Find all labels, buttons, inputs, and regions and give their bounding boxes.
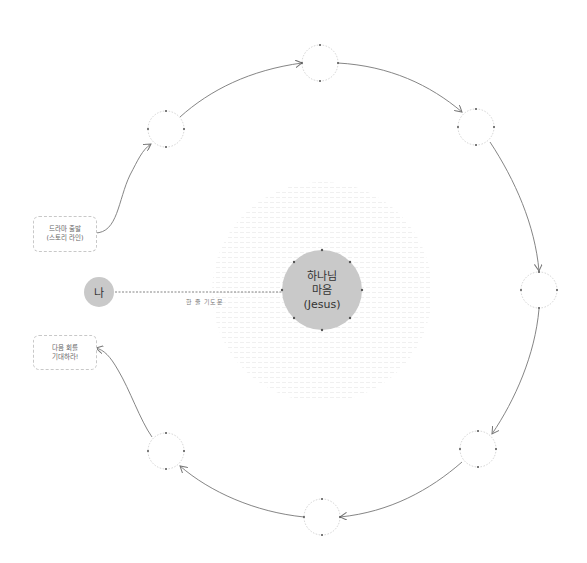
cycle-node-upper-left[interactable] [147,110,185,148]
center-label-line-1: 하나님 [307,270,337,284]
start-box-line-1: 드라마 출발 [49,225,81,234]
cycle-node-lower-left[interactable] [147,432,185,470]
arrow-lower-left-to-end [96,348,152,437]
end-box-line-2: 기대하라! [52,353,79,362]
end-box[interactable]: 다음 회를 기대하라! [33,335,97,370]
cycle-node-top[interactable] [301,44,339,82]
arrow-lower-right-to-bottom [340,462,462,517]
arrow-upper-right-to-right [490,142,539,271]
arrow-start-to-upper-left [95,144,151,233]
cycle-node-right[interactable] [520,271,558,309]
arrow-bottom-to-lower-left [180,466,304,517]
center-label-line-3: (Jesus) [303,298,340,312]
start-box-line-2: (스토리 라인) [46,234,83,243]
connector-label: 한 줄 기도문 [186,297,223,306]
cycle-node-bottom[interactable] [303,498,341,536]
cycle-node-lower-right[interactable] [459,430,497,468]
cycle-node-upper-right[interactable] [457,108,495,146]
end-box-line-1: 다음 회를 [52,344,78,353]
self-node-label: 나 [84,284,114,300]
arrow-upper-left-to-top [180,63,302,117]
center-node-label: 하나님 마음 (Jesus) [282,266,362,316]
arrow-right-to-lower-right [492,309,539,434]
arrow-top-to-upper-right [338,63,462,112]
center-label-line-2: 마음 [312,284,332,298]
start-box[interactable]: 드라마 출발 (스토리 라인) [33,216,97,252]
